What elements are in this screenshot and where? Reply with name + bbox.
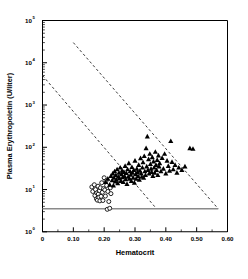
y-axis-title: Plasma Erythropoietin (U/liter) [5,72,14,179]
data-point-triangle [144,146,149,151]
y-tick-label: 10 [25,17,32,24]
data-point-circle [100,181,104,185]
data-point-triangle [155,157,160,162]
y-tick-label: 10 [25,101,32,108]
plot-frame [42,21,228,233]
data-point-triangle [176,165,181,170]
data-point-triangle [168,138,173,143]
x-tick-label: 0.50 [191,235,204,242]
y-tick-label-exponent: 2 [33,142,36,147]
data-point-triangle [153,149,158,154]
y-tick-label-exponent: 0 [33,226,36,231]
scatter-plot: 100101102103104105 00.100.200.300.400.50… [0,0,248,279]
x-tick-label: 0.20 [98,235,111,242]
y-tick-label: 10 [25,59,32,66]
data-point-triangle [132,158,137,163]
x-axis-tick-labels: 00.100.200.300.400.500.60 [41,235,234,242]
y-tick-label-exponent: 3 [33,100,36,105]
x-tick-label: 0.60 [221,235,234,242]
x-tick-label: 0.30 [129,235,142,242]
x-axis-ticks [43,227,228,232]
data-point-circle [99,194,103,198]
x-tick-label: 0.10 [67,235,80,242]
y-tick-label: 10 [25,143,32,150]
y-axis-ticks [43,21,48,232]
data-point-triangle [142,153,147,158]
data-point-triangle [145,134,150,139]
data-point-circle [103,194,107,198]
y-tick-label: 10 [25,228,32,235]
data-point-triangle [165,158,170,163]
data-point-triangle [160,155,165,160]
data-point-triangle [169,159,174,164]
x-axis-title: Hematocrit [116,248,155,257]
data-point-triangle [144,164,149,169]
data-point-circle [101,199,105,203]
y-tick-label-exponent: 1 [33,184,36,189]
data-point-circle [108,206,112,210]
data-point-triangle [136,162,141,167]
data-point-triangle [140,160,145,165]
data-point-circle [107,200,111,204]
x-tick-label: 0.40 [160,235,173,242]
y-tick-label: 10 [25,186,32,193]
data-point-layer [90,134,196,212]
data-point-triangle [182,164,187,169]
data-point-triangle [171,167,176,172]
y-axis-tick-labels: 100101102103104105 [25,15,35,235]
x-tick-label: 0 [41,235,45,242]
figure-container: 100101102103104105 00.100.200.300.400.50… [0,0,248,279]
data-point-triangle [147,151,152,156]
data-point-circle [109,192,113,196]
y-tick-label-exponent: 5 [33,15,36,20]
reference-lines [43,43,219,209]
data-point-triangle [126,161,131,166]
data-point-triangle [166,163,171,168]
data-point-triangle [140,165,145,170]
data-point-triangle [161,166,166,171]
y-tick-label-exponent: 4 [33,57,36,62]
data-point-triangle [162,151,167,156]
